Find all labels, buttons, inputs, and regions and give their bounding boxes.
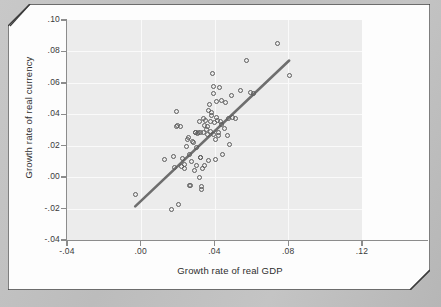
data-point bbox=[198, 155, 203, 160]
data-point bbox=[225, 133, 230, 138]
data-point bbox=[182, 162, 187, 167]
data-point bbox=[194, 163, 199, 168]
data-point bbox=[199, 187, 204, 192]
y-tick-mark bbox=[61, 51, 66, 52]
data-point bbox=[222, 126, 227, 131]
data-point bbox=[227, 142, 232, 147]
y-tick-label: -.02 bbox=[10, 203, 60, 213]
y-axis-title: Growth rate of real currency bbox=[23, 28, 34, 208]
y-tick-label: -.04 bbox=[10, 234, 60, 244]
y-tick-mark bbox=[61, 19, 66, 20]
y-tick-label-text: .10 bbox=[16, 14, 60, 24]
y-tick-label-text: -.04 bbox=[16, 234, 60, 244]
y-tick-label: .00 bbox=[10, 171, 60, 181]
data-point bbox=[188, 183, 193, 188]
data-point bbox=[223, 100, 228, 105]
data-point bbox=[184, 144, 189, 149]
data-point bbox=[202, 163, 207, 168]
x-tick-label: .08 bbox=[268, 246, 308, 256]
scatter-chart: .10.08.06.04.02.00-.02-.04 -.04.00.04.08… bbox=[0, 0, 441, 307]
data-point bbox=[210, 71, 215, 76]
data-point bbox=[213, 157, 218, 162]
y-tick-label: .08 bbox=[10, 45, 60, 55]
data-point bbox=[169, 207, 174, 212]
data-point bbox=[233, 116, 238, 121]
data-point bbox=[176, 202, 181, 207]
data-point bbox=[189, 159, 194, 164]
data-point bbox=[238, 88, 243, 93]
y-tick-mark bbox=[61, 114, 66, 115]
y-axis-line bbox=[66, 19, 67, 241]
data-point bbox=[174, 109, 179, 114]
data-point bbox=[211, 91, 216, 96]
x-tick-label: -.04 bbox=[47, 246, 87, 256]
y-tick-label: .04 bbox=[10, 108, 60, 118]
data-point bbox=[206, 158, 211, 163]
data-point bbox=[211, 84, 216, 89]
data-point bbox=[180, 156, 185, 161]
data-point bbox=[275, 41, 280, 46]
data-point bbox=[287, 73, 292, 78]
data-point bbox=[216, 133, 221, 138]
data-point bbox=[251, 91, 256, 96]
x-tick-label: .00 bbox=[121, 246, 161, 256]
y-tick-label: .06 bbox=[10, 77, 60, 87]
x-axis-line bbox=[66, 240, 428, 241]
y-tick-mark bbox=[61, 208, 66, 209]
data-point bbox=[197, 175, 202, 180]
data-point bbox=[229, 93, 234, 98]
data-point bbox=[194, 145, 199, 150]
data-point bbox=[217, 85, 222, 90]
y-tick-label: .02 bbox=[10, 140, 60, 150]
y-tick-label: .10 bbox=[10, 14, 60, 24]
data-point bbox=[162, 157, 167, 162]
x-tick-label: .12 bbox=[342, 246, 382, 256]
y-tick-mark bbox=[61, 239, 66, 240]
data-point bbox=[192, 168, 197, 173]
y-tick-mark bbox=[61, 176, 66, 177]
data-point bbox=[207, 102, 212, 107]
data-point bbox=[244, 58, 249, 63]
x-axis-title: Growth rate of real GDP bbox=[120, 265, 340, 276]
data-point bbox=[187, 152, 192, 157]
data-point bbox=[178, 124, 183, 129]
data-point bbox=[172, 165, 177, 170]
data-point bbox=[133, 192, 138, 197]
data-point bbox=[171, 154, 176, 159]
x-tick-label: .04 bbox=[195, 246, 235, 256]
y-tick-mark bbox=[61, 145, 66, 146]
y-tick-mark bbox=[61, 82, 66, 83]
data-point bbox=[220, 152, 225, 157]
